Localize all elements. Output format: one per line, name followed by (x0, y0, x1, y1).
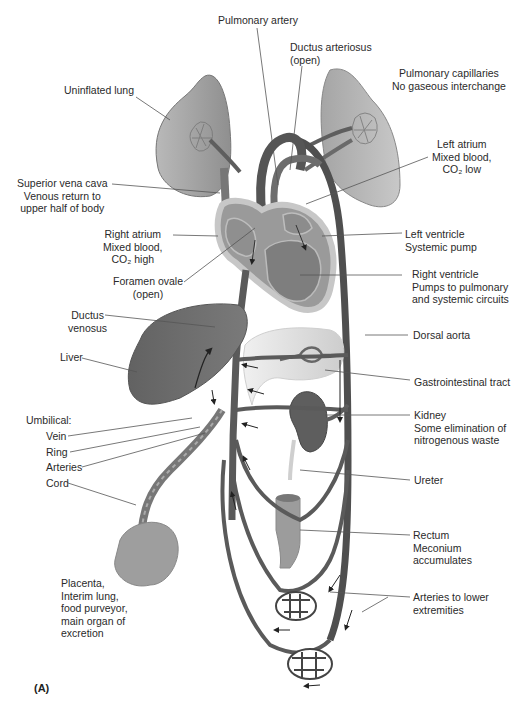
label-dorsal-aorta: Dorsal aorta (413, 329, 470, 342)
label-pulmonary-capillaries: Pulmonary capillariesNo gaseous intercha… (392, 67, 506, 92)
label-superior-vena-cava: Superior vena cavaVenous return toupper … (17, 177, 107, 215)
ureter (290, 440, 294, 480)
label-ductus-arteriosus: Ductus arteriosus(open) (290, 41, 372, 66)
label-umbilical-ring: Ring (46, 446, 68, 459)
label-placenta: Placenta,Interim lung,food purveyor,main… (61, 577, 128, 640)
label-umbilical: Umbilical: (26, 414, 72, 427)
label-ureter: Ureter (414, 474, 443, 487)
gastrointestinal-tract (243, 328, 343, 405)
label-umbilical-cord: Cord (46, 477, 69, 490)
label-uninflated-lung: Uninflated lung (64, 84, 134, 97)
capillary-bed-lower (288, 649, 332, 679)
label-pulmonary-artery: Pulmonary artery (218, 14, 298, 27)
label-right-ventricle: Right ventriclePumps to pulmonaryand sys… (412, 268, 509, 306)
label-left-ventricle: Left ventricleSystemic pump (405, 228, 477, 253)
panel-label: (A) (34, 682, 49, 694)
label-rectum: RectumMeconiumaccumulates (413, 529, 472, 567)
capillary-bed-upper (276, 592, 316, 620)
label-umbilical-vein: Vein (46, 430, 66, 443)
label-left-atrium: Left atriumMixed blood,CO₂ low (432, 138, 492, 176)
liver (128, 304, 247, 404)
label-umbilical-arteries: Arteries (46, 461, 82, 474)
label-right-atrium: Right atriumMixed blood,CO₂ high (103, 228, 163, 266)
left-uninflated-lung (156, 75, 231, 197)
label-arteries-lower-extremities: Arteries to lowerextremities (413, 591, 489, 616)
label-foramen-ovale: Foramen ovale(open) (113, 275, 183, 300)
label-gastrointestinal-tract: Gastrointestinal tract (414, 376, 510, 389)
label-kidney: KidneySome elimination ofnitrogenous was… (414, 409, 506, 447)
label-liver: Liver (60, 351, 83, 364)
label-ductus-venosus: Ductusvenosus (68, 309, 107, 334)
